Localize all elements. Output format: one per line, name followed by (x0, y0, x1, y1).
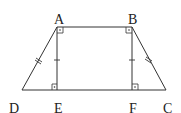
right-angle-a (57, 27, 63, 33)
label-e: E (54, 101, 63, 113)
segment-da (22, 27, 57, 90)
right-angle-f (132, 84, 138, 90)
label-d: D (9, 101, 19, 113)
right-angle-e (52, 84, 57, 90)
right-angle-b (126, 27, 132, 33)
label-b: B (128, 12, 137, 27)
label-a: A (54, 12, 65, 27)
label-c: C (163, 101, 172, 113)
label-f: F (129, 101, 137, 113)
trapezoid-diagram: A B D E F C (0, 0, 181, 113)
